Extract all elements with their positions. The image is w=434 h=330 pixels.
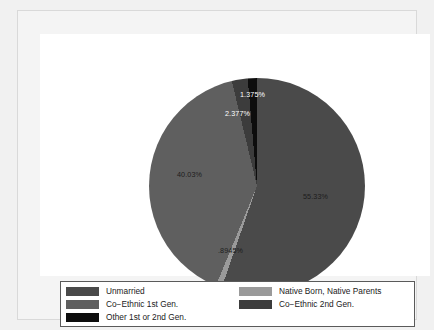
legend-swatch-icon <box>66 287 99 296</box>
legend-swatch-icon <box>66 313 99 322</box>
legend-swatch-icon <box>239 287 272 296</box>
legend: UnmarriedNative Born, Native ParentsCo−E… <box>60 281 415 327</box>
legend-item[interactable]: Native Born, Native Parents <box>239 285 412 298</box>
legend-item[interactable]: Co−Ethnic 1st Gen. <box>66 298 239 311</box>
legend-item[interactable]: Other 1st or 2nd Gen. <box>66 311 239 324</box>
legend-item[interactable]: Unmarried <box>66 285 239 298</box>
chart-page: 55.33%.8945%40.03%2.377%1.375% Unmarried… <box>0 0 434 330</box>
legend-item-label: Unmarried <box>106 286 145 297</box>
pie-slice-label: 55.33% <box>303 192 328 201</box>
legend-swatch-icon <box>239 300 272 309</box>
legend-item-label: Other 1st or 2nd Gen. <box>106 312 186 323</box>
legend-swatch-icon <box>66 300 99 309</box>
figure-frame: 55.33%.8945%40.03%2.377%1.375% Unmarried… <box>17 10 417 320</box>
pie-slice-label: 1.375% <box>240 90 265 99</box>
pie-slices[interactable] <box>149 78 365 294</box>
legend-item-label: Co−Ethnic 1st Gen. <box>106 299 178 310</box>
pie-slice-label: 40.03% <box>177 170 202 179</box>
legend-item[interactable]: Co−Ethnic 2nd Gen. <box>239 298 412 311</box>
legend-item-label: Co−Ethnic 2nd Gen. <box>279 299 354 310</box>
pie-slice-label: .8945% <box>218 246 243 255</box>
legend-item-label: Native Born, Native Parents <box>279 286 381 297</box>
pie-chart: 55.33%.8945%40.03%2.377%1.375% <box>149 78 365 294</box>
legend-grid: UnmarriedNative Born, Native ParentsCo−E… <box>61 282 414 326</box>
plot-canvas: 55.33%.8945%40.03%2.377%1.375% <box>40 34 430 276</box>
pie-slice-label: 2.377% <box>225 109 250 118</box>
